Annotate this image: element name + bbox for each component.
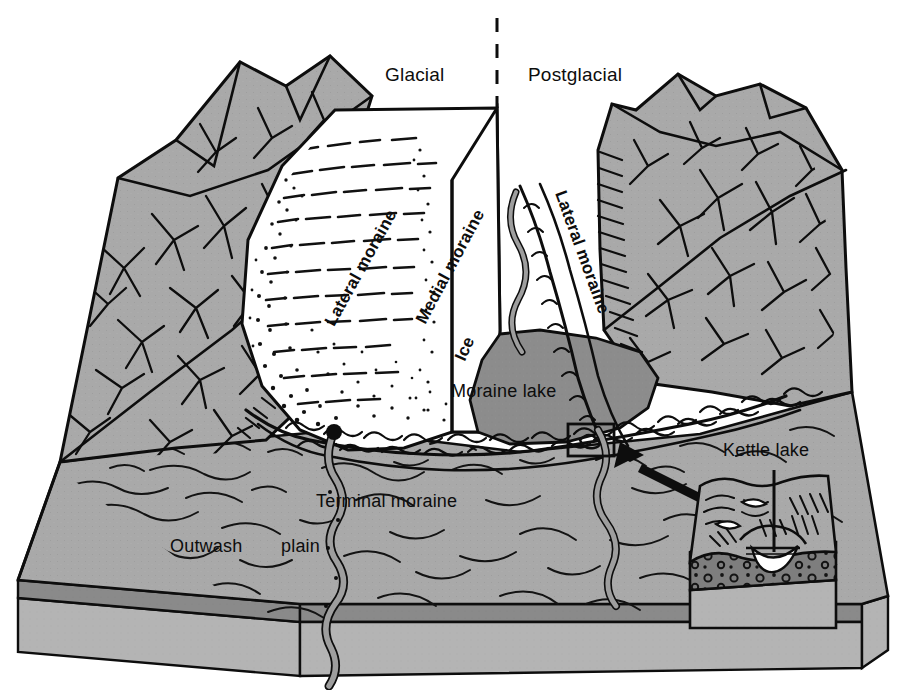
figure-canvas: Glacial Postglacial Lateral moraine Medi… bbox=[0, 0, 906, 690]
kettle-lake-inset-block bbox=[690, 470, 836, 628]
label-postglacial: Postglacial bbox=[528, 64, 622, 86]
label-outwash: Outwash bbox=[170, 536, 242, 557]
label-terminal-moraine: Terminal moraine bbox=[316, 491, 457, 512]
label-moraine-lake: Moraine lake bbox=[451, 381, 556, 402]
label-kettle-lake: Kettle lake bbox=[723, 440, 809, 461]
label-plain: plain bbox=[281, 536, 320, 557]
label-glacial: Glacial bbox=[385, 64, 444, 86]
block-diagram-artwork bbox=[0, 0, 906, 690]
